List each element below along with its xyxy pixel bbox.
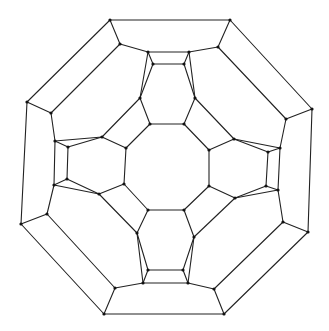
graph-edge	[140, 64, 153, 98]
graph-edge	[280, 119, 286, 148]
graph-vertex	[100, 135, 103, 138]
graph-vertex	[148, 122, 151, 125]
graph-edge	[140, 52, 148, 98]
graph-vertex	[97, 192, 100, 195]
graph-vertex	[118, 42, 121, 45]
graph-edge	[184, 186, 209, 210]
graph-edge	[124, 148, 126, 184]
graph-edge	[102, 98, 140, 137]
graph-edge	[27, 20, 110, 102]
graph-vertex	[233, 196, 236, 199]
graph-edge	[99, 184, 124, 194]
graph-edge	[120, 44, 148, 52]
graph-vertex	[284, 117, 287, 120]
graph-edge	[278, 190, 283, 222]
graph-edge	[47, 214, 115, 288]
graph-edge	[184, 52, 189, 64]
graph-vertex	[182, 62, 185, 65]
graph-vertex	[53, 139, 56, 142]
graph-edge	[124, 184, 148, 210]
graph-edge	[189, 47, 218, 52]
graph-vertex	[306, 230, 309, 233]
graph-edge	[47, 185, 54, 214]
graph-edge	[214, 289, 224, 314]
graph-vertex	[186, 281, 189, 284]
graph-edges	[21, 20, 312, 314]
graph-vertex	[19, 222, 22, 225]
graph-edge	[235, 186, 266, 198]
graph-vertex	[182, 122, 185, 125]
graph-vertex	[146, 268, 149, 271]
graph-vertex	[146, 50, 149, 53]
graph-edge	[51, 44, 120, 113]
graph-edge	[224, 232, 308, 314]
graph-vertex	[102, 312, 105, 315]
graph-vertex	[266, 150, 269, 153]
graph-vertex	[276, 188, 279, 191]
graph-vertex	[207, 184, 210, 187]
graph-edge	[21, 214, 47, 224]
graph-vertex	[108, 18, 111, 21]
graph-edge	[283, 222, 308, 232]
graph-edge	[137, 210, 148, 233]
graph-vertex	[212, 287, 215, 290]
graph-vertex	[310, 107, 313, 110]
graph-vertex	[66, 145, 69, 148]
graph-vertex	[25, 100, 28, 103]
graph-edge	[184, 124, 209, 150]
graph-edge	[268, 148, 280, 152]
graph-edge	[235, 190, 278, 198]
graph-edge	[104, 288, 115, 314]
graph-vertex	[45, 212, 48, 215]
graph-edge	[209, 139, 234, 150]
graph-vertex	[281, 220, 284, 223]
graph-vertex	[146, 208, 149, 211]
graph-edge	[102, 137, 126, 148]
graph-edge	[115, 283, 143, 288]
graph-edge	[189, 52, 195, 98]
graph-vertex	[192, 235, 195, 238]
graph-edge	[184, 210, 194, 237]
graph-edge	[21, 102, 27, 224]
graph-edge	[137, 233, 148, 270]
graph-edge	[67, 179, 99, 194]
graph-edge	[183, 270, 188, 283]
graph-edge	[195, 98, 234, 139]
graph-edge	[140, 98, 150, 124]
graph-edge	[54, 185, 99, 194]
graph-vertex	[65, 177, 68, 180]
graph-edge	[286, 109, 312, 119]
graph-edge	[308, 109, 312, 232]
graph-edge	[188, 237, 194, 283]
graph-vertex	[232, 137, 235, 140]
graph-edge	[278, 148, 280, 190]
graph-edge	[137, 233, 143, 283]
graph-diagram	[0, 0, 329, 331]
graph-vertex	[222, 312, 225, 315]
graph-vertex	[182, 208, 185, 211]
graph-edge	[234, 139, 268, 152]
graph-edge	[55, 141, 68, 147]
graph-vertex	[138, 96, 141, 99]
graph-vertex	[124, 146, 127, 149]
graph-vertex	[193, 96, 196, 99]
graph-edge	[21, 224, 104, 314]
graph-edge	[184, 98, 195, 124]
graph-vertex	[49, 111, 52, 114]
graph-vertex	[207, 148, 210, 151]
graph-edge	[51, 113, 55, 141]
graph-edge	[214, 222, 283, 289]
graph-edge	[54, 179, 67, 185]
graph-edge	[218, 20, 230, 47]
graph-vertex	[141, 281, 144, 284]
graph-edge	[266, 186, 278, 190]
graph-vertex	[135, 231, 138, 234]
graph-vertex	[216, 45, 219, 48]
graph-edge	[148, 52, 153, 64]
graph-vertex	[187, 50, 190, 53]
graph-edge	[110, 20, 120, 44]
graph-vertex	[264, 184, 267, 187]
graph-vertex	[113, 286, 116, 289]
graph-vertex	[52, 183, 55, 186]
graph-edge	[184, 64, 195, 98]
